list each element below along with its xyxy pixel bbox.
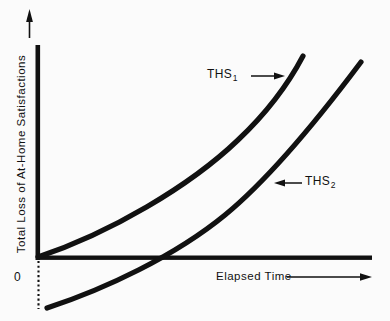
chart-figure: Total Loss of At-Home Satisfactions 0 El…: [0, 0, 390, 321]
series-label-ths1: THS1: [207, 67, 237, 81]
series-label-ths1-text: THS: [207, 67, 232, 81]
series-label-ths2-subscript: 2: [331, 180, 336, 190]
y-axis-label: Total Loss of At-Home Satisfactions: [15, 49, 27, 259]
ths2-pointer-arrow-icon: [274, 180, 302, 187]
y-axis-line: [36, 45, 41, 260]
ths1-curve: [38, 56, 303, 257]
series-label-ths2: THS2: [305, 174, 335, 188]
x-axis-label: Elapsed Time: [216, 270, 292, 282]
x-axis-line: [36, 256, 372, 260]
y-axis-arrow-icon: [26, 9, 33, 38]
ths1-pointer-arrow-icon: [251, 73, 285, 80]
chart-plot-area: [0, 0, 390, 321]
series-label-ths1-subscript: 1: [233, 73, 238, 83]
x-axis-caption-arrow-icon: [287, 273, 372, 281]
y-axis-zero-tick-label: 0: [14, 270, 21, 284]
series-label-ths2-text: THS: [305, 174, 330, 188]
